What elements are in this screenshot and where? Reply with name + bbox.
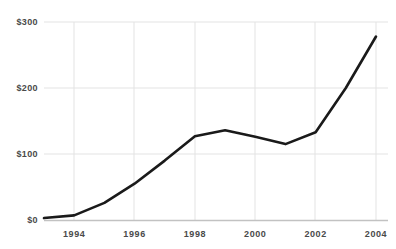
y-tick-label-100: $100 [16,149,38,159]
line-chart: $0$100$200$300 199419961998200020022004 [0,0,396,249]
x-tick-label-1994: 1994 [49,229,99,239]
x-tick-label-2002: 2002 [291,229,341,239]
horizontal-gridlines [44,22,388,154]
chart-canvas [0,0,396,249]
x-tick-label-1998: 1998 [170,229,220,239]
x-tick-label-1996: 1996 [110,229,160,239]
data-series-line [44,37,376,219]
y-tick-label-200: $200 [16,83,38,93]
x-tick-label-2004: 2004 [351,229,396,239]
x-tick-label-2000: 2000 [230,229,280,239]
vertical-gridlines [74,22,376,220]
y-tick-label-0: $0 [27,215,38,225]
y-tick-label-300: $300 [16,17,38,27]
